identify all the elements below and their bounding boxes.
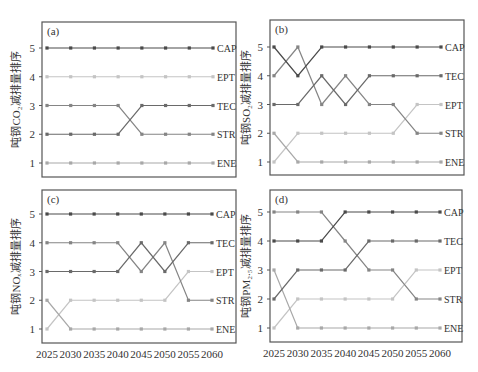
data-point-marker — [69, 104, 72, 107]
data-point-marker — [45, 241, 48, 244]
data-point-marker — [45, 270, 48, 273]
data-point-marker — [164, 161, 167, 164]
data-point-marker — [367, 268, 370, 271]
data-point-marker — [439, 160, 442, 163]
series-end-label: TEC — [217, 101, 236, 112]
series-end-label: STR — [445, 128, 464, 139]
x-tick-label: 2035 — [83, 348, 106, 360]
series-end-label: ENE — [445, 157, 464, 168]
data-point-marker — [45, 46, 48, 49]
data-point-marker — [320, 103, 323, 106]
panel-label: (a) — [47, 25, 60, 38]
data-point-marker — [391, 268, 394, 271]
data-point-marker — [296, 45, 299, 48]
data-point-marker — [210, 241, 213, 244]
data-point-marker — [93, 161, 96, 164]
data-point-marker — [188, 133, 191, 136]
x-tick-label: 2050 — [154, 348, 177, 360]
data-point-marker — [163, 299, 166, 302]
data-point-marker — [439, 132, 442, 135]
data-point-marker — [69, 327, 72, 330]
y-tick-label: 2 — [30, 294, 36, 306]
series-end-label: TEC — [216, 238, 235, 249]
data-point-marker — [296, 268, 299, 271]
data-point-marker — [272, 103, 275, 106]
data-point-marker — [45, 327, 48, 330]
data-point-marker — [320, 160, 323, 163]
panel-label: (c) — [47, 193, 60, 206]
series-end-label: ENE — [444, 323, 463, 334]
data-point-marker — [368, 160, 371, 163]
data-point-marker — [164, 46, 167, 49]
data-point-marker — [416, 45, 419, 48]
data-point-marker — [69, 46, 72, 49]
y-axis-label: 吨钢SO₂减排量排序 — [239, 50, 252, 145]
data-point-marker — [391, 326, 394, 329]
data-point-marker — [392, 45, 395, 48]
data-point-marker — [416, 160, 419, 163]
series-ept: EPT — [45, 72, 234, 83]
y-tick-label: 4 — [30, 237, 36, 249]
data-point-marker — [116, 299, 119, 302]
series-cap: CAP — [45, 43, 236, 54]
chart-canvas: (a)12345吨钢CO₂减排量排序EPTENESTRTECCAP(b)1234… — [0, 0, 478, 372]
data-point-marker — [45, 212, 48, 215]
data-point-marker — [344, 239, 347, 242]
data-point-marker — [211, 46, 214, 49]
data-point-marker — [392, 74, 395, 77]
series-end-label: EPT — [445, 100, 463, 111]
data-point-marker — [116, 241, 119, 244]
series-end-label: CAP — [445, 42, 465, 53]
series-end-label: TEC — [444, 236, 463, 247]
data-point-marker — [211, 104, 214, 107]
data-point-marker — [140, 270, 143, 273]
series-ept: EPT — [45, 267, 233, 331]
y-tick-label: 5 — [258, 206, 264, 218]
data-point-marker — [93, 133, 96, 136]
y-axis-label: 吨钢PM₂.₅减排量排序 — [239, 214, 252, 317]
data-point-marker — [368, 103, 371, 106]
data-point-marker — [69, 241, 72, 244]
data-point-marker — [210, 212, 213, 215]
data-point-marker — [164, 133, 167, 136]
y-tick-label: 5 — [30, 42, 36, 54]
data-point-marker — [368, 45, 371, 48]
data-point-marker — [438, 239, 441, 242]
data-point-marker — [116, 270, 119, 273]
series-end-label: STR — [216, 295, 235, 306]
series-line — [47, 243, 212, 272]
y-tick-label: 4 — [258, 235, 264, 247]
data-point-marker — [416, 103, 419, 106]
x-tick-label: 2040 — [107, 348, 130, 360]
data-point-marker — [438, 268, 441, 271]
data-point-marker — [117, 46, 120, 49]
series-line — [274, 133, 441, 162]
x-tick-label: 2040 — [334, 347, 357, 359]
data-point-marker — [164, 104, 167, 107]
x-tick-label: 2030 — [60, 348, 83, 360]
data-point-marker — [392, 103, 395, 106]
data-point-marker — [93, 327, 96, 330]
data-point-marker — [272, 74, 275, 77]
series-line — [274, 76, 441, 105]
data-point-marker — [415, 297, 418, 300]
data-point-marker — [140, 75, 143, 78]
series-line — [47, 300, 212, 329]
data-point-marker — [140, 46, 143, 49]
data-point-marker — [93, 270, 96, 273]
data-point-marker — [391, 210, 394, 213]
data-point-marker — [367, 297, 370, 300]
series-end-label: EPT — [217, 72, 235, 83]
data-point-marker — [45, 161, 48, 164]
data-point-marker — [392, 132, 395, 135]
data-point-marker — [320, 239, 323, 242]
data-point-marker — [272, 326, 275, 329]
data-point-marker — [116, 212, 119, 215]
x-tick-label: 2045 — [358, 347, 381, 359]
data-point-marker — [45, 133, 48, 136]
series-end-label: EPT — [444, 265, 462, 276]
panel-label: (d) — [275, 193, 288, 206]
data-point-marker — [93, 104, 96, 107]
data-point-marker — [140, 327, 143, 330]
data-point-marker — [187, 327, 190, 330]
